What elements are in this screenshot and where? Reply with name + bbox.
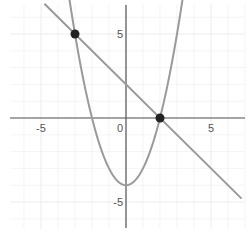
x-tick-label: 5 bbox=[208, 122, 214, 134]
y-tick-label: -5 bbox=[113, 196, 123, 208]
intersection-point bbox=[71, 30, 80, 39]
grid-lines bbox=[10, 4, 245, 229]
function-plot: -5055-5 bbox=[0, 0, 250, 236]
x-tick-label: -5 bbox=[36, 122, 46, 134]
y-tick-label: 5 bbox=[117, 28, 123, 40]
intersection-point bbox=[156, 114, 165, 123]
axes bbox=[10, 5, 245, 228]
x-tick-label: 0 bbox=[117, 122, 123, 134]
